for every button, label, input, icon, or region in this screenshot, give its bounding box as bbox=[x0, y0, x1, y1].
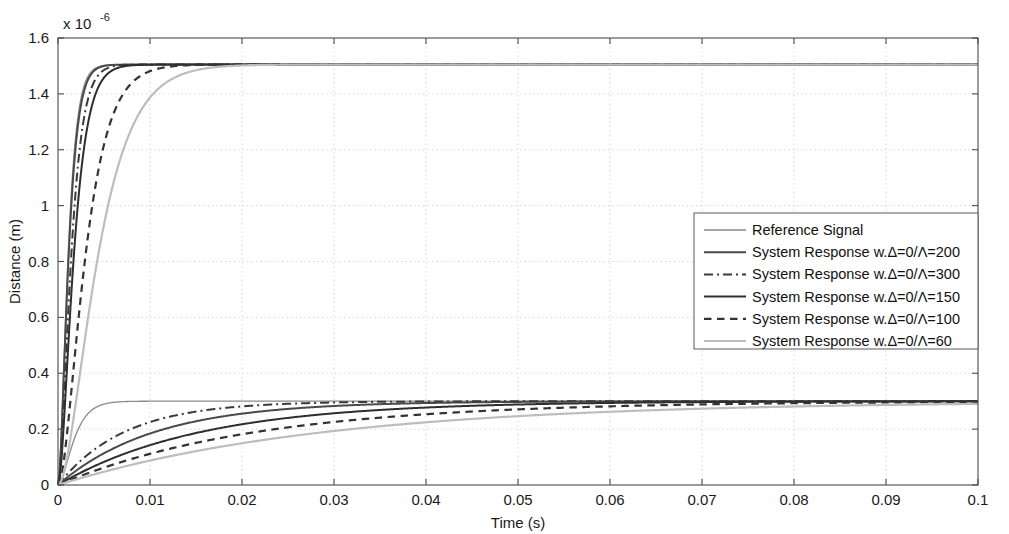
x-tick-label: 0 bbox=[54, 491, 62, 508]
legend-label-2: System Response w.Δ=0/Λ=300 bbox=[752, 266, 960, 282]
y-tick-label: 1 bbox=[41, 197, 49, 214]
x-tick-label: 0.1 bbox=[968, 491, 989, 508]
series-5-lower-trace bbox=[58, 404, 978, 485]
x-tick-label: 0.06 bbox=[595, 491, 624, 508]
legend-label-0: Reference Signal bbox=[752, 222, 863, 238]
y-tick-label: 0.2 bbox=[28, 420, 49, 437]
y-tick-label: 1.6 bbox=[28, 29, 49, 46]
x-axis-title: Time (s) bbox=[491, 514, 545, 531]
y-tick-label: 0.6 bbox=[28, 308, 49, 325]
legend-label-1: System Response w.Δ=0/Λ=200 bbox=[752, 244, 960, 260]
y-tick-label: 0 bbox=[41, 476, 49, 493]
legend-label-5: System Response w.Δ=0/Λ=60 bbox=[752, 333, 952, 349]
x-tick-label: 0.05 bbox=[503, 491, 532, 508]
y-tick-label: 0.8 bbox=[28, 253, 49, 270]
x-tick-label: 0.01 bbox=[135, 491, 164, 508]
y-tick-label: 1.4 bbox=[28, 85, 49, 102]
figure-root: 00.010.020.030.040.050.060.070.080.090.1… bbox=[0, 0, 1009, 534]
legend-label-3: System Response w.Δ=0/Λ=150 bbox=[752, 289, 960, 305]
x-tick-label: 0.03 bbox=[319, 491, 348, 508]
x-tick-label: 0.09 bbox=[871, 491, 900, 508]
y-tick-label: 1.2 bbox=[28, 141, 49, 158]
x-tick-label: 0.08 bbox=[779, 491, 808, 508]
y-tick-label: 0.4 bbox=[28, 364, 49, 381]
y-axis-exponent-label: x 10 bbox=[63, 15, 91, 32]
legend[interactable]: Reference SignalSystem Response w.Δ=0/Λ=… bbox=[694, 213, 978, 349]
legend-label-4: System Response w.Δ=0/Λ=100 bbox=[752, 311, 960, 327]
y-axis-title: Distance (m) bbox=[6, 219, 23, 304]
step-response-chart: 00.010.020.030.040.050.060.070.080.090.1… bbox=[0, 0, 1009, 534]
x-tick-label: 0.02 bbox=[227, 491, 256, 508]
x-tick-label: 0.04 bbox=[411, 491, 440, 508]
y-axis-exponent-power: -6 bbox=[100, 11, 110, 23]
x-tick-label: 0.07 bbox=[687, 491, 716, 508]
